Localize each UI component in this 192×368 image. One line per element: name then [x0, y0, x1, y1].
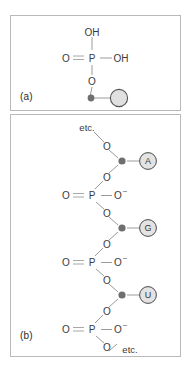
base-letter-u: U	[145, 290, 152, 300]
atom-o-minus-2: O	[114, 257, 122, 268]
atom-o-4: O	[103, 239, 111, 250]
atom-o-1: O	[103, 141, 111, 152]
atom-o-left-3: O	[62, 324, 70, 335]
sugar-dot-a	[118, 157, 125, 164]
base-letter-g: G	[144, 223, 151, 233]
atom-oh-top: OH	[85, 27, 100, 38]
figure-container: OH O P OH O	[0, 0, 192, 368]
atom-o-5: O	[103, 275, 111, 286]
charge-minus-3: –	[123, 321, 127, 328]
atom-o-2: O	[103, 172, 111, 183]
sugar-dot-g	[118, 224, 125, 231]
atom-o-minus-1: O	[114, 190, 122, 201]
etc-label-top: etc.	[79, 122, 94, 133]
atom-o-minus-3: O	[114, 324, 122, 335]
atom-oh-right: OH	[114, 53, 129, 64]
sugar-dot-u	[118, 291, 125, 298]
panel-b-label: (b)	[20, 330, 33, 341]
bond-o6-to-p3	[95, 315, 103, 323]
bond-o4-to-p2	[95, 248, 103, 256]
atom-o-left-2: O	[62, 257, 70, 268]
charge-minus-2: –	[123, 254, 127, 261]
atom-p-2: P	[89, 257, 96, 268]
panel-b: etc. O O O P O – O O O P O – O O O P O –…	[10, 114, 181, 357]
sugar-dot	[88, 95, 95, 102]
atom-p-center: P	[89, 53, 96, 64]
atom-o-left: O	[62, 53, 70, 64]
atom-o-6: O	[103, 306, 111, 317]
panel-a: OH O P OH O	[10, 15, 181, 111]
panel-b-diagram: etc. O O O P O – O O O P O – O O O P O –…	[11, 115, 182, 358]
etc-label-bottom: etc.	[122, 344, 137, 355]
atom-o-7: O	[103, 342, 111, 353]
atom-o-left-1: O	[62, 190, 70, 201]
atom-o-3: O	[103, 208, 111, 219]
base-letter-a: A	[145, 156, 151, 166]
panel-a-label: (a)	[20, 91, 33, 102]
atom-o-bottom: O	[88, 76, 96, 87]
bond-o2-to-p1	[95, 181, 103, 189]
atom-p-1: P	[89, 190, 96, 201]
atom-p-3: P	[89, 324, 96, 335]
panel-a-diagram: OH O P OH O	[11, 16, 182, 112]
charge-minus-1: –	[123, 187, 127, 194]
base-circle-unlabeled	[110, 89, 127, 106]
